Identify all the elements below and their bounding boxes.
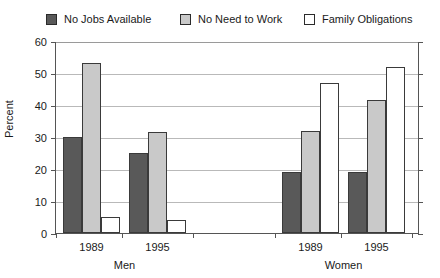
y-tick-right-30 [418,138,423,139]
gridline-60 [56,42,418,43]
bar-no-jobs-available-2 [282,172,301,233]
x-group-label-women: Women [325,259,363,271]
legend-item-family-obligations: Family Obligations [304,13,412,25]
gridline-50 [56,74,418,75]
y-tick-right-40 [418,106,423,107]
x-group-label-men: Men [114,259,135,271]
gridline-40 [56,106,418,107]
y-tick-20 [51,170,56,171]
bar-family-obligations-1 [167,220,186,233]
legend-swatch-no-jobs-available [46,14,57,25]
x-category-label-2: 1989 [298,241,322,253]
bar-family-obligations-2 [320,83,339,233]
x-tick-2 [193,233,194,238]
bar-family-obligations-3 [386,67,405,233]
y-tick-10 [51,202,56,203]
y-axis-title: Percent [4,100,15,138]
y-tick-30 [51,138,56,139]
x-tick-1 [122,233,123,238]
legend-label-no-jobs-available: No Jobs Available [64,13,151,25]
x-tick-4 [341,233,342,238]
y-tick-right-20 [418,170,423,171]
legend-item-no-need-to-work: No Need to Work [180,13,282,25]
y-tick-label-60: 60 [35,37,47,48]
bar-no-need-to-work-1 [148,132,167,233]
y-tick-40 [51,106,56,107]
bar-no-jobs-available-1 [129,153,148,233]
bar-family-obligations-0 [101,217,120,233]
gridline-20 [56,170,418,171]
y-tick-label-40: 40 [35,101,47,112]
chart-legend: No Jobs Available No Need to Work Family… [0,8,440,30]
y-tick-60 [51,42,56,43]
y-tick-label-0: 0 [41,229,47,240]
x-category-label-3: 1995 [364,241,388,253]
gridline-30 [56,138,418,139]
y-tick-label-20: 20 [35,165,47,176]
legend-label-no-need-to-work: No Need to Work [198,13,282,25]
bar-no-jobs-available-0 [63,137,82,233]
x-category-label-1: 1995 [145,241,169,253]
legend-label-family-obligations: Family Obligations [322,13,412,25]
y-tick-right-60 [418,42,423,43]
y-tick-50 [51,74,56,75]
y-tick-label-10: 10 [35,197,47,208]
legend-item-no-jobs-available: No Jobs Available [46,13,151,25]
x-tick-3 [275,233,276,238]
bar-no-need-to-work-2 [301,131,320,233]
y-tick-label-50: 50 [35,69,47,80]
y-tick-right-10 [418,202,423,203]
x-tick-0 [56,233,57,238]
legend-swatch-no-need-to-work [180,14,191,25]
bar-no-need-to-work-3 [367,100,386,233]
bar-no-need-to-work-0 [82,63,101,233]
bar-no-jobs-available-3 [348,172,367,233]
x-tick-5 [412,233,413,238]
x-category-label-0: 1989 [79,241,103,253]
plot-area: 0102030405060 1989199519891995MenWomen [55,42,419,234]
y-tick-right-50 [418,74,423,75]
y-tick-right-0 [418,234,423,235]
legend-swatch-family-obligations [304,14,315,25]
y-tick-label-30: 30 [35,133,47,144]
